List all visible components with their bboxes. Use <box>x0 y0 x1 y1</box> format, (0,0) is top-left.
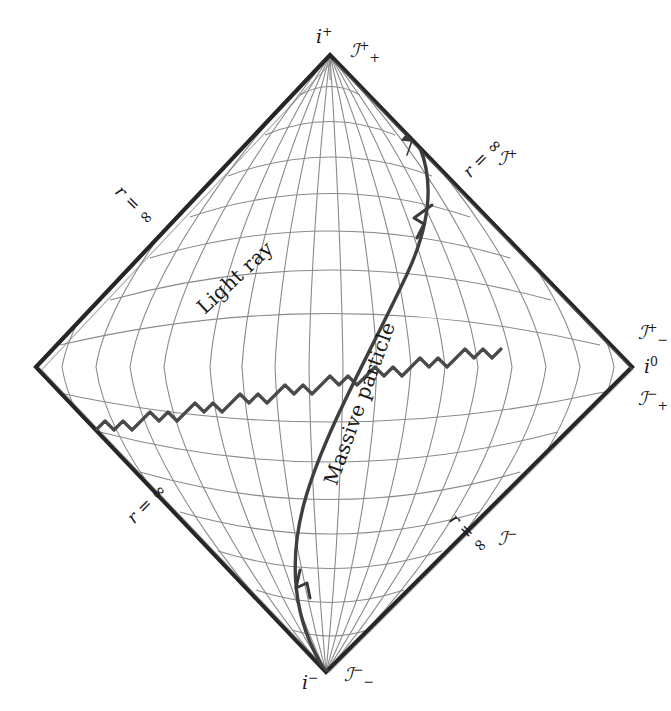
label-i-zero: i0 <box>644 356 658 376</box>
label-scri-plus-minus: ℐ+− <box>638 322 668 347</box>
penrose-diagram-figure: i+ ℐ++ i− ℐ−− ℐ+− i0 ℐ−+ ℐ+ ℐ− r = ∞ r =… <box>0 0 671 711</box>
constant-time-curves <box>55 55 604 636</box>
label-scri-plus-plus: ℐ++ <box>350 40 380 65</box>
coordinate-grid <box>55 55 614 672</box>
label-scri-minus-minus: ℐ−− <box>344 664 374 689</box>
label-scri-minus-plus: ℐ−+ <box>638 388 668 413</box>
label-i-plus: i+ <box>316 26 333 46</box>
label-i-minus: i− <box>302 672 319 692</box>
penrose-diagram-canvas <box>0 0 671 711</box>
label-scri-minus: ℐ− <box>498 528 518 548</box>
constant-radius-curves <box>62 55 614 672</box>
light-ray-arrowhead <box>402 122 418 155</box>
